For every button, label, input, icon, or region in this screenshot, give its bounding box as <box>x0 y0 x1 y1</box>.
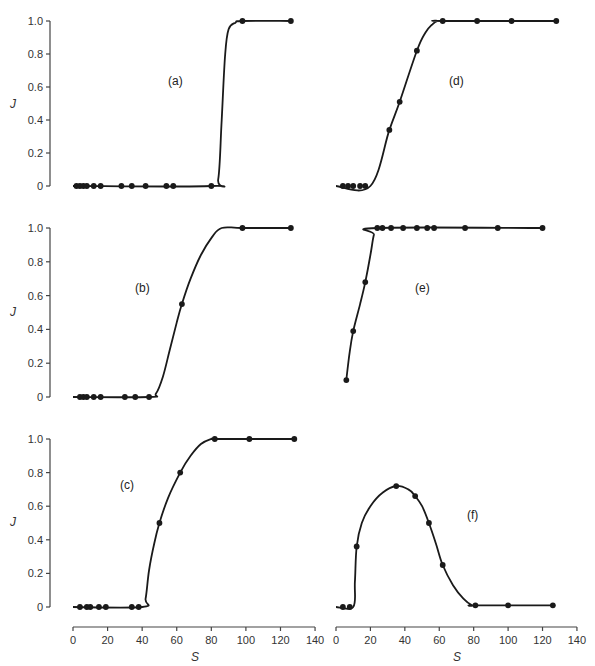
data-point-marker <box>400 225 406 231</box>
panel-label-a: (a) <box>168 74 183 88</box>
data-point-marker <box>426 520 432 526</box>
x-tick-label: 20 <box>364 634 376 646</box>
y-tick-label: 0.4 <box>28 534 43 546</box>
panel-label-c: (c) <box>120 478 134 492</box>
data-point-marker <box>374 225 380 231</box>
data-point-marker <box>357 183 363 189</box>
data-point-marker <box>98 183 104 189</box>
data-point-marker <box>388 225 394 231</box>
panel-label-f: (f) <box>467 508 478 522</box>
x-tick-label: 100 <box>499 634 517 646</box>
x-tick-label: 120 <box>271 634 289 646</box>
data-point-marker <box>246 436 252 442</box>
x-tick-label: 100 <box>237 634 255 646</box>
x-axis-title-left: S <box>191 650 199 664</box>
data-point-marker <box>553 18 559 24</box>
x-tick-label: 60 <box>433 634 445 646</box>
data-point-marker <box>473 602 479 608</box>
y-tick-label: 0.6 <box>28 81 43 93</box>
data-point-marker <box>119 183 125 189</box>
panel-a: 00.20.40.60.81.0 J (a) <box>9 15 294 192</box>
x-tick-label: 140 <box>306 634 324 646</box>
data-point-marker <box>84 183 90 189</box>
data-point-marker <box>103 604 109 610</box>
panel-f: (f) <box>336 483 556 610</box>
x-tick-label: 60 <box>171 634 183 646</box>
data-point-marker <box>163 183 169 189</box>
y-tick-label: 0.6 <box>28 500 43 512</box>
data-point-marker <box>380 225 386 231</box>
data-point-marker <box>462 225 468 231</box>
y-axis-title-panel-a: J <box>9 97 17 111</box>
data-point-marker <box>122 394 128 400</box>
data-point-marker <box>177 470 183 476</box>
data-point-marker <box>386 127 392 133</box>
data-point-marker <box>354 544 360 550</box>
panel-b: 00.20.40.60.81.0 J (b) <box>9 222 294 403</box>
y-tick-label: 0.4 <box>28 323 43 335</box>
data-point-marker <box>350 328 356 334</box>
data-point-marker <box>288 225 294 231</box>
y-axis-title-panel-c: J <box>9 515 17 529</box>
data-point-marker <box>240 18 246 24</box>
y-axis-panel-a: 00.20.40.60.81.0 <box>28 15 50 192</box>
plot-area-panel-a <box>73 18 294 189</box>
data-point-marker <box>87 604 93 610</box>
data-point-marker <box>91 183 97 189</box>
data-curve <box>336 486 553 609</box>
data-point-marker <box>288 18 294 24</box>
data-point-marker <box>414 48 420 54</box>
panel-label-b: (b) <box>135 281 150 295</box>
data-point-marker <box>129 183 135 189</box>
data-point-marker <box>440 562 446 568</box>
x-tick-label: 40 <box>399 634 411 646</box>
data-point-marker <box>509 18 515 24</box>
plot-area-panel-e <box>343 225 545 383</box>
data-point-marker <box>495 225 501 231</box>
plot-area-panel-f <box>336 483 556 610</box>
panel-e: (e) <box>343 225 545 383</box>
y-tick-label: 0.8 <box>28 48 43 60</box>
data-point-marker <box>146 394 152 400</box>
data-point-marker <box>347 604 353 610</box>
data-point-marker <box>96 604 102 610</box>
data-curve <box>346 227 542 380</box>
y-tick-label: 0.4 <box>28 114 43 126</box>
data-point-marker <box>362 183 368 189</box>
data-curve <box>73 439 294 608</box>
data-point-marker <box>143 183 149 189</box>
data-point-marker <box>340 604 346 610</box>
data-point-marker <box>240 225 246 231</box>
y-tick-label: 0.6 <box>28 290 43 302</box>
data-curve <box>73 227 291 397</box>
y-axis-panel-c: 00.20.40.60.81.0 <box>28 433 50 613</box>
y-tick-label: 1.0 <box>28 222 43 234</box>
data-point-marker <box>91 394 97 400</box>
panel-d: (d) <box>336 18 559 190</box>
x-tick-label: 40 <box>136 634 148 646</box>
x-tick-label: 0 <box>333 634 339 646</box>
y-tick-label: 0.8 <box>28 467 43 479</box>
data-point-marker <box>136 604 142 610</box>
y-tick-label: 0.2 <box>28 357 43 369</box>
data-point-marker <box>340 183 346 189</box>
y-tick-label: 0.2 <box>28 567 43 579</box>
data-point-marker <box>412 493 418 499</box>
data-point-marker <box>350 183 356 189</box>
plot-area-panel-d <box>336 18 559 190</box>
panel-c: 00.20.40.60.81.0 J (c) <box>9 433 297 613</box>
data-point-marker <box>343 377 349 383</box>
data-point-marker <box>98 394 104 400</box>
data-point-marker <box>291 436 297 442</box>
data-point-marker <box>397 99 403 105</box>
x-axis-title-right: S <box>453 650 461 664</box>
y-tick-label: 0 <box>37 601 43 613</box>
data-point-marker <box>179 301 185 307</box>
y-tick-label: 1.0 <box>28 433 43 445</box>
data-point-marker <box>84 394 90 400</box>
x-tick-label: 80 <box>468 634 480 646</box>
y-axis-title-panel-b: J <box>9 305 17 319</box>
data-point-marker <box>540 225 546 231</box>
y-tick-label: 0.2 <box>28 147 43 159</box>
data-point-marker <box>424 225 430 231</box>
